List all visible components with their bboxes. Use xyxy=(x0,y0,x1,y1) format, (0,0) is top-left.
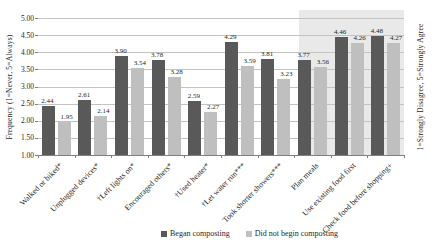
bar-value-label: 3.77 xyxy=(298,51,310,59)
bar-value-label: 2.44 xyxy=(41,97,53,105)
bar-did-not-begin-composting: 2.14 xyxy=(94,116,107,155)
x-tick-mark xyxy=(184,155,185,158)
bar-did-not-begin-composting: 4.27 xyxy=(387,43,400,155)
bar-value-label: 4.29 xyxy=(224,33,236,41)
bar-began-composting: 4.48 xyxy=(371,36,384,155)
x-tick-mark xyxy=(294,155,295,158)
y-tick-mark xyxy=(35,138,38,139)
bar-value-label: 2.61 xyxy=(78,91,90,99)
bar-began-composting: 4.46 xyxy=(335,37,348,156)
bar-value-label: 3.54 xyxy=(134,59,146,67)
x-tick-mark xyxy=(148,155,149,158)
y-axis-title-right: 1=Strongly Disagree, 5=Strongly Agree xyxy=(416,23,425,150)
x-tick-mark xyxy=(367,155,368,158)
bar-value-label: 3.59 xyxy=(244,57,256,65)
y-tick-label: 3.50 xyxy=(9,65,34,74)
bar-began-composting: 2.61 xyxy=(78,100,91,155)
bar-began-composting: 2.59 xyxy=(188,101,201,155)
y-tick-label: 4.00 xyxy=(9,48,34,57)
x-tick-mark xyxy=(75,155,76,158)
y-tick-mark xyxy=(35,69,38,70)
bar-began-composting: 3.77 xyxy=(298,60,311,155)
y-tick-label: 5.00 xyxy=(9,14,34,23)
x-tick-mark xyxy=(38,155,39,158)
bar-value-label: 3.28 xyxy=(170,68,182,76)
bar-value-label: 4.48 xyxy=(371,27,383,35)
bar-group: 4.484.27 xyxy=(367,18,404,155)
bar-value-label: 4.26 xyxy=(353,34,365,42)
y-tick-label: 3.00 xyxy=(9,82,34,91)
bar-value-label: 3.56 xyxy=(317,58,329,66)
bar-value-label: 4.27 xyxy=(390,34,402,42)
bar-value-label: 3.90 xyxy=(115,47,127,55)
y-tick-mark xyxy=(35,121,38,122)
y-tick-label: 1.50 xyxy=(9,133,34,142)
bar-did-not-begin-composting: 3.23 xyxy=(277,79,290,155)
x-tick-mark xyxy=(111,155,112,158)
y-tick-label: 1.00 xyxy=(9,151,34,160)
x-tick-mark xyxy=(404,155,405,158)
bar-group: 3.813.23 xyxy=(258,18,295,155)
bar-value-label: 1.95 xyxy=(61,113,73,121)
y-tick-mark xyxy=(35,104,38,105)
y-tick-mark xyxy=(35,52,38,53)
y-tick-label: 2.00 xyxy=(9,116,34,125)
bar-chart: Frequency (1=Never, 5=Always) 1=Strongly… xyxy=(0,0,434,249)
y-tick-label: 4.50 xyxy=(9,31,34,40)
bar-group: 3.783.28 xyxy=(148,18,185,155)
bar-did-not-begin-composting: 3.59 xyxy=(241,66,254,155)
x-tick-mark xyxy=(258,155,259,158)
bar-began-composting: 3.78 xyxy=(152,60,165,155)
category-label: Check food before shopping+ xyxy=(310,161,394,245)
bar-group: 3.773.56 xyxy=(294,18,331,155)
bar-value-label: 2.59 xyxy=(188,92,200,100)
bar-did-not-begin-composting: 2.27 xyxy=(204,112,217,155)
bar-value-label: 2.14 xyxy=(97,107,109,115)
bar-group: 3.903.54 xyxy=(111,18,148,155)
bar-did-not-begin-composting: 3.28 xyxy=(168,77,181,155)
bar-group: 2.592.27 xyxy=(184,18,221,155)
bar-value-label: 4.46 xyxy=(334,28,346,36)
bar-began-composting: 4.29 xyxy=(225,42,238,155)
bar-group: 4.464.26 xyxy=(331,18,368,155)
bar-value-label: 3.81 xyxy=(261,50,273,58)
bar-began-composting: 3.81 xyxy=(261,59,274,155)
bar-value-label: 3.23 xyxy=(280,70,292,78)
bar-value-label: 2.27 xyxy=(207,103,219,111)
bar-did-not-begin-composting: 3.54 xyxy=(131,68,144,155)
plot-area: 2.441.952.612.143.903.543.783.282.592.27… xyxy=(38,18,404,155)
x-tick-mark xyxy=(221,155,222,158)
y-tick-mark xyxy=(35,18,38,19)
bar-began-composting: 3.90 xyxy=(115,56,128,155)
y-tick-mark xyxy=(35,35,38,36)
bar-began-composting: 2.44 xyxy=(42,106,55,155)
bar-did-not-begin-composting: 4.26 xyxy=(351,43,364,155)
bar-group: 2.441.95 xyxy=(38,18,75,155)
x-tick-mark xyxy=(331,155,332,158)
y-tick-label: 2.50 xyxy=(9,99,34,108)
bar-did-not-begin-composting: 1.95 xyxy=(58,122,71,155)
bar-group: 4.293.59 xyxy=(221,18,258,155)
y-tick-mark xyxy=(35,87,38,88)
bar-value-label: 3.78 xyxy=(151,51,163,59)
bar-group: 2.612.14 xyxy=(75,18,112,155)
bar-did-not-begin-composting: 3.56 xyxy=(314,67,327,155)
